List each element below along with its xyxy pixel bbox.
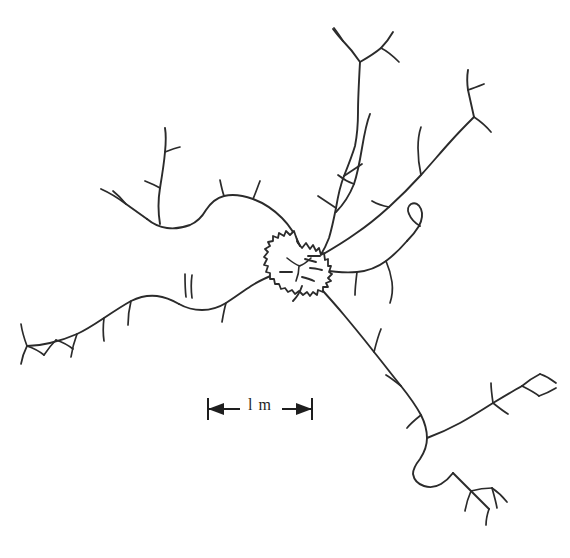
branch-east-upper <box>320 117 474 256</box>
nest-serrated-circle <box>264 231 332 296</box>
branch-hub-left-twigs <box>185 274 192 298</box>
branch-north-trunk <box>316 62 362 262</box>
branch-north-east-parallel <box>336 114 370 212</box>
branch-east-upper-fork <box>467 70 491 132</box>
branch-east-hook <box>407 203 422 241</box>
trail-network-figure: l m <box>0 0 570 558</box>
branch-southeast-long <box>314 281 453 487</box>
branch-east-terminal-fan <box>522 374 556 396</box>
branch-northwest-loop <box>147 180 300 246</box>
branch-east-lower-long <box>427 383 522 438</box>
branch-east-middle <box>322 241 407 303</box>
branch-mid-left-connector <box>179 272 280 322</box>
scale-bar-left-arrowhead <box>208 403 224 415</box>
branch-south-terminal-fan <box>453 473 507 525</box>
scale-bar-right-arrowhead <box>296 403 312 415</box>
branch-north-fork <box>333 28 399 62</box>
scale-bar-label: l m <box>236 396 284 414</box>
nest-hub <box>264 231 332 296</box>
branch-west-upper <box>101 128 180 224</box>
trail-network-drawing <box>0 0 570 558</box>
